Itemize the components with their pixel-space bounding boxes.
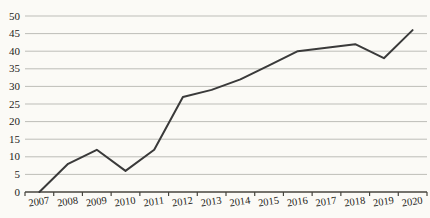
line-chart-canvas: 0510152025303540455020072008200920102011…: [0, 0, 430, 218]
y-axis-tick-label: 10: [9, 150, 21, 162]
y-axis-tick-label: 35: [9, 62, 21, 74]
y-axis-tick-label: 15: [9, 133, 21, 145]
y-axis-tick-label: 20: [9, 115, 21, 127]
y-axis-tick-label: 5: [15, 168, 21, 180]
y-axis-tick-label: 40: [9, 45, 21, 57]
y-axis-tick-label: 30: [9, 80, 21, 92]
chart-background: [0, 0, 430, 218]
y-axis-tick-label: 0: [15, 186, 21, 198]
y-axis-tick-label: 50: [9, 10, 21, 22]
line-chart: 0510152025303540455020072008200920102011…: [0, 0, 430, 218]
y-axis-tick-label: 25: [9, 98, 21, 110]
y-axis-tick-label: 45: [9, 27, 21, 39]
